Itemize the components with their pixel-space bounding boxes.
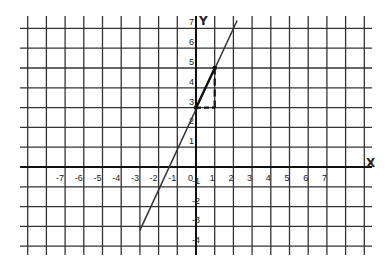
coordinate-grid: -7-6-5-4-3-2-101234567 1234567-1-2-3-4 X…	[0, 0, 392, 270]
x-tick-label: 3	[247, 173, 252, 183]
x-tick-label: 1	[210, 173, 215, 183]
y-tick-label: 7	[189, 17, 194, 27]
x-tick-label: 7	[322, 173, 327, 183]
y-tick-label: -3	[192, 215, 200, 225]
y-tick-label: 1	[189, 136, 194, 146]
x-axis-label: X	[366, 156, 376, 170]
x-tick-label: -6	[75, 173, 83, 183]
y-tick-label: 4	[189, 77, 194, 87]
y-tick-label: -4	[192, 235, 200, 245]
y-tick-labels: 1234567-1-2-3-4	[189, 17, 200, 245]
x-tick-label: -4	[112, 173, 120, 183]
x-tick-label: -3	[131, 173, 139, 183]
y-axis-label: Y	[198, 14, 208, 28]
y-tick-label: -1	[192, 176, 200, 186]
x-tick-label: 4	[266, 173, 271, 183]
x-tick-label: 6	[303, 173, 308, 183]
x-tick-label: 5	[285, 173, 290, 183]
point-marker	[212, 66, 217, 71]
y-tick-label: 6	[189, 37, 194, 47]
x-tick-label: -2	[150, 173, 158, 183]
y-tick-label: 3	[189, 97, 194, 107]
x-tick-label: -7	[56, 173, 64, 183]
graph-line	[140, 20, 237, 230]
x-tick-label: -5	[94, 173, 102, 183]
x-tick-label: 2	[228, 173, 233, 183]
y-tick-label: -2	[192, 196, 200, 206]
y-tick-label: 5	[189, 57, 194, 67]
point-marker	[194, 105, 199, 110]
x-tick-label: -1	[168, 173, 176, 183]
